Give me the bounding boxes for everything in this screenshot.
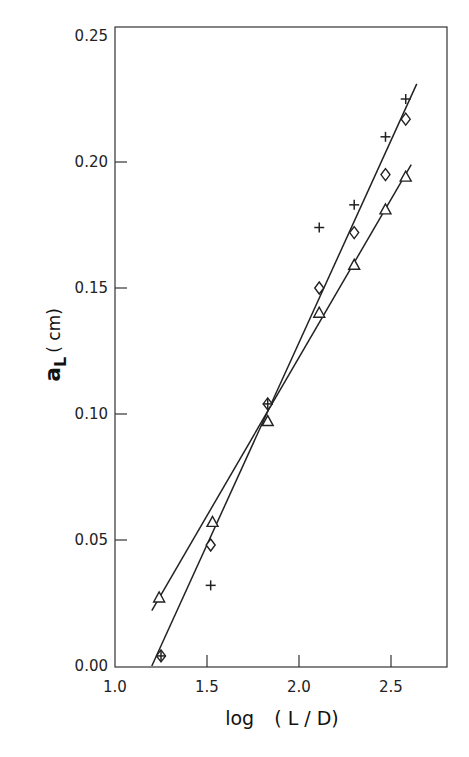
x-tick-label: 2.5 xyxy=(379,678,403,696)
y-tick-label: 0.20 xyxy=(75,153,108,171)
y-tick-label: 0.25 xyxy=(75,27,108,45)
x-axis-label-log: log xyxy=(225,707,254,729)
x-axis-label: log ( L / D) xyxy=(225,707,339,729)
triangle-marker xyxy=(349,259,360,269)
y-axis-label-sub: L xyxy=(51,357,70,367)
plus-marker xyxy=(206,580,216,590)
y-tick-label: 0.00 xyxy=(75,657,108,675)
x-tick-label: 2.0 xyxy=(287,678,311,696)
plot-frame xyxy=(115,27,447,667)
shallow-fit-line xyxy=(152,165,411,611)
triangle-marker xyxy=(207,516,218,526)
plus-marker xyxy=(263,399,273,409)
x-tick-label: 1.5 xyxy=(195,678,219,696)
plus-marker xyxy=(349,200,359,210)
plus-marker xyxy=(314,223,324,233)
tick-labels: 0.000.050.100.150.200.251.01.52.02.5 xyxy=(75,27,403,696)
plus-marker xyxy=(380,132,390,142)
triangle-marker xyxy=(154,592,165,602)
y-axis-label-unit: ( cm) xyxy=(44,308,64,353)
triangle-marker xyxy=(380,204,391,214)
chart: 0.000.050.100.150.200.251.01.52.02.5 log… xyxy=(0,0,469,757)
triangle-marker xyxy=(400,171,411,181)
svg-text:aL( cm): aL( cm) xyxy=(40,308,70,382)
triangle-marker xyxy=(314,307,325,317)
fit-lines xyxy=(152,84,417,666)
diamond-marker xyxy=(381,169,390,181)
axis-ticks xyxy=(115,162,391,667)
steep-fit-line xyxy=(152,84,417,666)
y-tick-label: 0.10 xyxy=(75,405,108,423)
plus-marker xyxy=(401,94,411,104)
y-axis-label: aL( cm) xyxy=(40,308,70,382)
diamond-marker xyxy=(206,539,215,551)
y-tick-label: 0.05 xyxy=(75,531,108,549)
y-axis-label-a: a xyxy=(40,367,65,382)
x-axis-label-paren: ( L / D) xyxy=(274,707,339,729)
x-tick-label: 1.0 xyxy=(103,678,127,696)
y-tick-label: 0.15 xyxy=(75,279,108,297)
